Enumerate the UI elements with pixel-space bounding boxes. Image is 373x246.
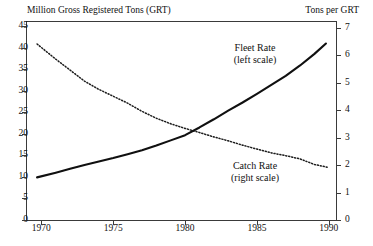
fleet-rate-label: Fleet Rate <box>196 42 314 54</box>
fleet-rate-scale-note: (left scale) <box>196 54 314 66</box>
catch-rate-scale-note: (right scale) <box>196 172 314 184</box>
chart-container: Million Gross Registered Tons (GRT) Tons… <box>0 0 373 246</box>
catch-rate-label: Catch Rate <box>196 160 314 172</box>
series-layer <box>0 0 373 246</box>
catch-rate-annotation: Catch Rate (right scale) <box>196 160 314 184</box>
fleet-rate-annotation: Fleet Rate (left scale) <box>196 42 314 66</box>
